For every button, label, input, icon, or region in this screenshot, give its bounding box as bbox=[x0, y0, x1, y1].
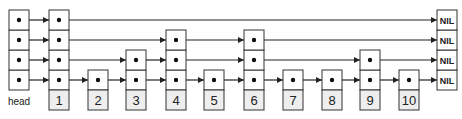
pointer-dot-icon bbox=[57, 18, 61, 22]
node-10: 10 bbox=[399, 70, 419, 110]
pointer-dot-icon bbox=[96, 78, 100, 82]
head-node: head bbox=[8, 10, 30, 107]
node-4: 4 bbox=[166, 30, 186, 110]
pointer-dot-icon bbox=[330, 78, 334, 82]
pointer-dot-icon bbox=[407, 78, 411, 82]
node-key: 7 bbox=[289, 93, 296, 108]
node-key: 1 bbox=[55, 93, 62, 108]
node-6: 6 bbox=[244, 30, 264, 110]
node-3: 3 bbox=[126, 50, 146, 110]
pointer-dot-icon bbox=[17, 78, 21, 82]
pointer-dot-icon bbox=[291, 78, 295, 82]
node-key: 10 bbox=[402, 93, 416, 108]
node-8: 8 bbox=[322, 70, 342, 110]
pointer-dot-icon bbox=[368, 78, 372, 82]
node-2: 2 bbox=[88, 70, 108, 110]
node-key: 9 bbox=[366, 93, 373, 108]
pointer-dot-icon bbox=[174, 78, 178, 82]
pointer-dot-icon bbox=[252, 78, 256, 82]
node-key: 5 bbox=[210, 93, 217, 108]
pointer-dot-icon bbox=[212, 78, 216, 82]
pointer-dot-icon bbox=[17, 58, 21, 62]
skip-list-diagram: head12345678910NILNILNILNIL bbox=[0, 0, 462, 119]
node-key: 6 bbox=[250, 93, 257, 108]
nil-label: NIL bbox=[440, 56, 455, 66]
pointer-dot-icon bbox=[134, 78, 138, 82]
node-key: 2 bbox=[94, 93, 101, 108]
nil-label: NIL bbox=[440, 36, 455, 46]
nil-label: NIL bbox=[440, 76, 455, 86]
node-key: 8 bbox=[328, 93, 335, 108]
pointer-dot-icon bbox=[134, 58, 138, 62]
node-1: 1 bbox=[49, 10, 69, 110]
pointer-dot-icon bbox=[57, 78, 61, 82]
node-9: 9 bbox=[360, 50, 380, 110]
pointer-dot-icon bbox=[57, 58, 61, 62]
pointer-dot-icon bbox=[368, 58, 372, 62]
pointer-dot-icon bbox=[252, 58, 256, 62]
node-5: 5 bbox=[204, 70, 224, 110]
node-7: 7 bbox=[283, 70, 303, 110]
node-key: 3 bbox=[132, 93, 139, 108]
nil-label: NIL bbox=[440, 16, 455, 26]
nil-node: NILNILNILNIL bbox=[437, 10, 457, 90]
pointer-dot-icon bbox=[174, 58, 178, 62]
pointer-dot-icon bbox=[174, 38, 178, 42]
node-key: 4 bbox=[172, 93, 179, 108]
pointer-dot-icon bbox=[17, 18, 21, 22]
pointer-dot-icon bbox=[57, 38, 61, 42]
head-label: head bbox=[8, 96, 30, 107]
pointer-dot-icon bbox=[252, 38, 256, 42]
pointer-dot-icon bbox=[17, 38, 21, 42]
